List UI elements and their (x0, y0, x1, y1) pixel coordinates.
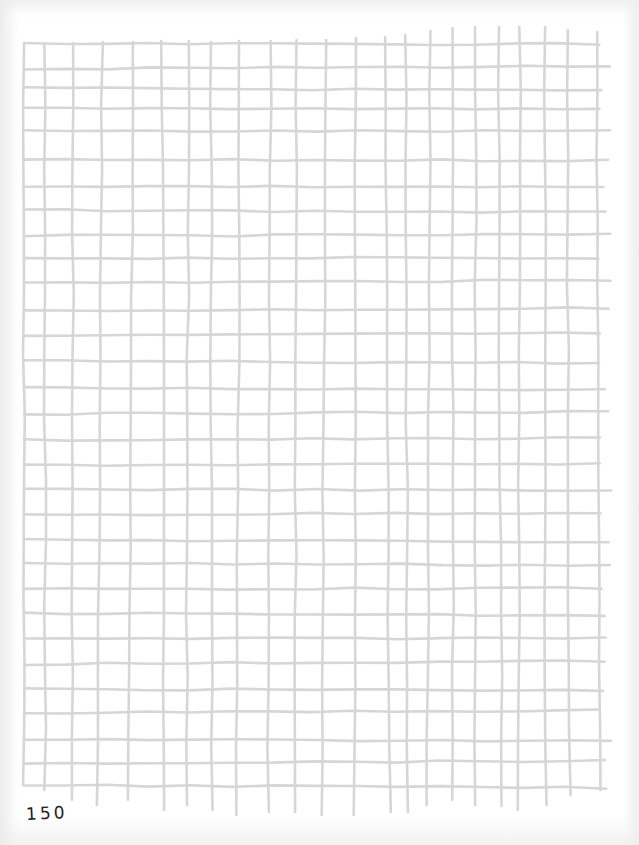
grid-horizontal-line (24, 463, 600, 465)
grid-vertical-line (44, 45, 46, 790)
grid-vertical-line (72, 43, 74, 800)
grid-vertical-line (474, 27, 476, 805)
grid-horizontal-line (24, 563, 610, 566)
grid-vertical-line (405, 35, 408, 812)
grid-horizontal-line (24, 130, 610, 132)
grid-vertical-line (544, 27, 546, 805)
grid-horizontal-line (24, 638, 606, 640)
grid-horizontal-line (24, 43, 599, 45)
grid-horizontal-line (24, 66, 610, 70)
grid-vertical-line (322, 40, 327, 815)
grid-horizontal-line (24, 108, 599, 110)
grid-vertical-line (354, 38, 356, 815)
grid-horizontal-line (24, 539, 609, 542)
grid-horizontal-line (24, 688, 603, 691)
grid-vertical-line (498, 27, 502, 806)
grid-vertical-line (567, 30, 571, 795)
grid-vertical-line (518, 27, 521, 810)
grid-horizontal-line (24, 234, 610, 237)
grid-vertical-line (161, 41, 164, 810)
graph-paper-page: 150 (0, 0, 639, 845)
grid-vertical-line (452, 28, 454, 800)
grid-horizontal-line (24, 489, 611, 491)
grid-horizontal-line (24, 661, 605, 666)
grid-horizontal-line (24, 513, 600, 515)
grid-horizontal-line (24, 587, 602, 589)
grid-horizontal-line (24, 739, 611, 741)
grid-vertical-line (210, 42, 212, 810)
grid-vertical-line (97, 42, 103, 805)
grid-horizontal-line (24, 87, 601, 90)
grid-vertical-line (267, 41, 271, 812)
grid-horizontal-line (24, 387, 605, 390)
grid-horizontal-line (24, 280, 611, 283)
grid-vertical-line (385, 37, 391, 812)
grid-horizontal-line (24, 360, 599, 363)
grid-horizontal-line (24, 710, 599, 714)
grid-horizontal-line (24, 613, 605, 616)
grid-horizontal-line (24, 186, 603, 187)
grid-horizontal-line (24, 257, 598, 259)
grid-vertical-line (236, 41, 240, 815)
grid-horizontal-line (24, 209, 605, 212)
page-number: 150 (26, 802, 68, 824)
grid-horizontal-line (24, 307, 609, 311)
grid-horizontal-line (24, 411, 608, 415)
grid-vertical-line (295, 40, 297, 812)
grid-horizontal-line (24, 333, 600, 336)
grid-vertical-line (128, 42, 133, 800)
grid-horizontal-line (24, 437, 600, 440)
hand-drawn-grid (0, 0, 639, 845)
